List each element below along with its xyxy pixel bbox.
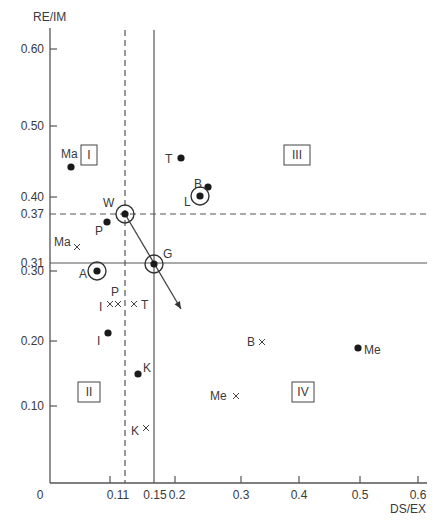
dot-marker-icon [354,344,361,351]
cross-marker-icon [143,425,149,431]
point-circled-dot-G: G [145,247,172,273]
point-label: K [143,361,151,375]
svg-text:II: II [86,385,93,399]
cross-marker-icon [131,301,137,307]
point-circled-dot-A: A [79,262,106,281]
point-label: Ma [54,235,71,249]
point-label: I [97,334,100,348]
cross-marker-icon [107,301,113,307]
y-axis-label: RE/IM [33,10,66,24]
point-dot-Ma: Ma [61,147,78,171]
dot-marker-icon [104,329,111,336]
reference-lines [50,30,427,483]
y-tick-label: 0.30 [21,264,45,278]
point-label: K [131,424,139,438]
svg-text:IV: IV [297,385,308,399]
quadrant-II: II [78,382,100,402]
y-tick-label: 0.37 [21,207,45,221]
dot-marker-icon [103,218,110,225]
x-tick-label: 0.4 [291,488,308,502]
point-label: I [99,300,102,314]
cross-marker-icon [233,393,239,399]
x-tick-label: 0.3 [233,488,250,502]
point-dot-P: P [95,218,111,238]
svg-text:III: III [292,148,302,162]
point-dot-Me: Me [354,343,381,357]
cross-marker-icon [259,339,265,345]
quadrant-IV: IV [292,382,314,402]
dot-marker-icon [121,210,128,217]
point-label: P [95,224,103,238]
x-axis-label: DS/EX [390,502,426,516]
y-tick-label: 0.40 [21,190,45,204]
point-label: B [247,335,255,349]
quadrant-III: III [284,145,310,165]
scatter-chart: RE/IM DS/EX 00.110.150.20.30.40.50.60.60… [0,0,447,530]
point-label: Me [364,343,381,357]
x-tick-label: 0.2 [169,488,186,502]
point-dot-T: T [165,152,185,166]
dot-marker-icon [196,192,203,199]
data-points: MaTBPIKMeLWAGMaIPTBMeK [54,147,381,438]
y-tick-label: 0.50 [21,119,45,133]
point-cross-Me: Me [210,389,239,403]
dot-marker-icon [134,370,141,377]
dot-marker-icon [93,267,100,274]
x-tick-label: 0 [37,488,44,502]
point-cross-I: I [99,300,113,314]
y-tick-label: 0.10 [21,399,45,413]
cross-marker-icon [115,301,121,307]
point-dot-B: B [194,177,212,191]
y-tick-label: 0.20 [21,334,45,348]
point-label: Me [210,389,227,403]
dot-marker-icon [177,154,184,161]
point-label: G [163,247,172,261]
point-label: L [184,195,191,209]
point-cross-T: T [131,298,149,312]
point-cross-K: K [131,424,149,438]
dot-marker-icon [150,260,157,267]
y-tick-label: 0.60 [21,42,45,56]
point-label: A [79,267,87,281]
point-label: Ma [61,147,78,161]
point-label: T [165,152,173,166]
x-tick-label: 0.5 [352,488,369,502]
x-tick-label: 0.6 [410,488,427,502]
dot-marker-icon [67,163,74,170]
point-cross-B: B [247,335,265,349]
point-cross-Ma: Ma [54,235,80,250]
point-label: P [111,285,119,299]
x-tick-label: 0.15 [143,488,167,502]
point-label: W [103,196,115,210]
quadrant-I: I [81,145,97,165]
point-dot-K: K [134,361,151,378]
point-cross-P: P [111,285,121,307]
point-dot-I: I [97,329,112,348]
arrowhead-icon [175,301,181,309]
svg-text:I: I [87,148,90,162]
cross-marker-icon [74,244,80,250]
x-tick-label: 0.11 [107,488,130,502]
point-label: T [141,298,149,312]
